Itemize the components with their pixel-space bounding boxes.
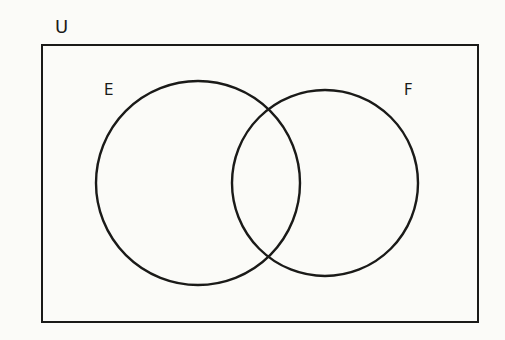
set-circle-f [232, 90, 418, 276]
set-label-e: E [104, 83, 113, 98]
venn-diagram-canvas: U E F [0, 0, 505, 340]
venn-diagram-graphic [0, 0, 505, 340]
set-circle-e [96, 81, 300, 285]
set-label-f: F [404, 83, 413, 98]
universal-set-label: U [55, 18, 69, 36]
